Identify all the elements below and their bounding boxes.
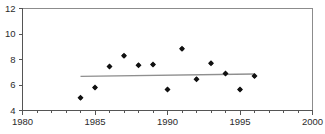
data-point-core — [137, 63, 141, 67]
y-tick-label: 12 — [5, 3, 16, 14]
y-tick-label: 6 — [10, 79, 15, 90]
data-point-core — [224, 72, 228, 76]
data-point-core — [108, 65, 112, 69]
data-point-core — [195, 77, 199, 81]
x-tick-label: 2000 — [302, 116, 323, 127]
chart-container: 4681012 19801985199019952000 — [0, 0, 325, 134]
x-tick-label: 1980 — [12, 116, 33, 127]
y-tick-labels: 4681012 — [5, 3, 16, 116]
data-point-core — [238, 88, 242, 92]
data-point-core — [79, 96, 83, 100]
data-point-core — [151, 63, 155, 67]
trend-line — [81, 74, 255, 76]
x-axis — [23, 111, 313, 115]
x-tick-label: 1985 — [84, 116, 105, 127]
y-tick-label: 8 — [10, 54, 15, 65]
data-point-core — [180, 47, 184, 51]
scatter-plot: 4681012 19801985199019952000 — [0, 0, 325, 134]
y-tick-label: 4 — [10, 105, 15, 116]
y-axis — [19, 9, 23, 111]
data-point-core — [93, 86, 97, 90]
y-tick-label: 10 — [5, 28, 16, 39]
plot-frame — [23, 9, 313, 111]
data-points — [78, 46, 258, 101]
data-point-core — [209, 61, 213, 65]
data-point-core — [166, 88, 170, 92]
x-tick-labels: 19801985199019952000 — [12, 116, 323, 127]
x-tick-label: 1995 — [229, 116, 250, 127]
data-point-core — [122, 54, 126, 58]
x-tick-label: 1990 — [157, 116, 178, 127]
data-point-core — [253, 74, 257, 78]
chart-title-clipped — [34, 0, 284, 2]
